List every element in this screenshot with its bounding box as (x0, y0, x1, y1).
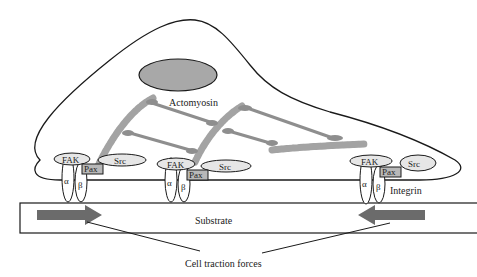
myosin-2 (130, 133, 190, 150)
integrin-label: Integrin (390, 185, 422, 196)
traction-label: Cell traction forces (185, 258, 262, 269)
svg-text:Src: Src (219, 162, 231, 172)
svg-text:α: α (167, 178, 172, 188)
svg-text:α: α (362, 179, 367, 189)
svg-text:Src: Src (408, 159, 420, 169)
svg-text:Pax: Pax (382, 167, 396, 177)
focal-adhesion-1: α β FAK Src Pax (54, 153, 146, 202)
myosin-4 (232, 132, 270, 143)
svg-text:β: β (181, 182, 186, 192)
svg-text:Pax: Pax (189, 170, 203, 180)
svg-text:Pax: Pax (84, 164, 98, 174)
svg-text:β: β (78, 180, 83, 190)
actomyosin-label: Actomyosin (169, 97, 218, 108)
cell-membrane (35, 20, 461, 180)
diagram-canvas: Actomyosin Substrate Cell traction force… (0, 0, 477, 277)
svg-text:α: α (64, 176, 69, 186)
svg-text:FAK: FAK (361, 157, 379, 167)
substrate-label: Substrate (195, 215, 233, 226)
svg-text:Src: Src (114, 156, 126, 166)
svg-text:β: β (376, 182, 381, 192)
actin-filament-3 (272, 144, 365, 150)
myosin-3 (250, 109, 330, 137)
nucleus (139, 59, 217, 91)
svg-text:FAK: FAK (62, 155, 80, 165)
svg-text:FAK: FAK (167, 160, 185, 170)
